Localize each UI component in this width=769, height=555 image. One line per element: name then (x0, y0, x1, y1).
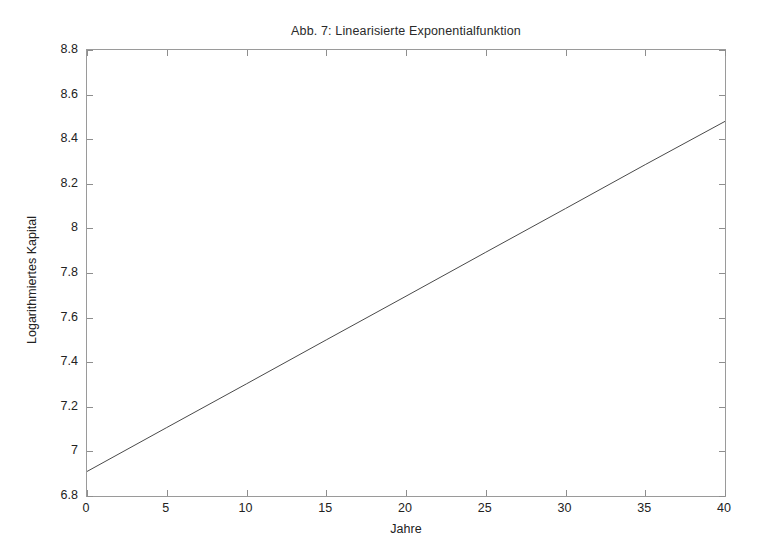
x-tick-mark-top (566, 50, 567, 56)
y-tick-label: 7.2 (22, 399, 78, 413)
x-tick-mark (167, 490, 168, 496)
y-tick-label: 6.8 (22, 488, 78, 502)
x-tick-mark-top (486, 50, 487, 56)
x-tick-mark-top (247, 50, 248, 56)
y-tick-label: 7.8 (22, 265, 78, 279)
x-tick-mark (247, 490, 248, 496)
y-tick-mark-right (719, 496, 725, 497)
x-tick-mark (725, 490, 726, 496)
y-tick-mark-right (719, 95, 725, 96)
x-tick-mark-top (167, 50, 168, 56)
x-tick-mark (486, 490, 487, 496)
x-tick-label: 25 (478, 501, 492, 515)
y-tick-mark-right (719, 139, 725, 140)
y-tick-mark (87, 496, 93, 497)
x-tick-label: 30 (558, 501, 572, 515)
x-tick-label: 15 (318, 501, 332, 515)
x-tick-mark (406, 490, 407, 496)
x-tick-mark (326, 490, 327, 496)
x-tick-mark-top (326, 50, 327, 56)
chart-title: Abb. 7: Linearisierte Exponentialfunktio… (86, 24, 726, 38)
y-tick-label: 7.6 (22, 310, 78, 324)
y-tick-mark-right (719, 362, 725, 363)
x-tick-mark-top (406, 50, 407, 56)
y-tick-mark (87, 228, 93, 229)
y-tick-label: 8.2 (22, 176, 78, 190)
x-tick-mark (645, 490, 646, 496)
y-tick-label: 8.8 (22, 42, 78, 56)
x-tick-label: 10 (239, 501, 253, 515)
y-tick-mark (87, 50, 93, 51)
y-tick-mark-right (719, 228, 725, 229)
x-tick-mark-top (645, 50, 646, 56)
x-tick-label: 35 (637, 501, 651, 515)
y-tick-mark-right (719, 407, 725, 408)
y-tick-mark (87, 184, 93, 185)
y-tick-mark (87, 407, 93, 408)
y-tick-mark-right (719, 451, 725, 452)
x-tick-label: 0 (83, 501, 90, 515)
y-tick-mark-right (719, 318, 725, 319)
y-tick-label: 8.6 (22, 87, 78, 101)
y-tick-mark (87, 451, 93, 452)
y-tick-mark (87, 139, 93, 140)
y-tick-mark-right (719, 273, 725, 274)
chart-figure: Abb. 7: Linearisierte Exponentialfunktio… (0, 0, 769, 555)
x-axis-label: Jahre (86, 522, 726, 536)
y-tick-label: 8 (22, 220, 78, 234)
data-series-line (87, 121, 725, 471)
y-tick-mark (87, 95, 93, 96)
x-tick-mark-top (725, 50, 726, 56)
y-tick-mark (87, 273, 93, 274)
y-tick-mark-right (719, 184, 725, 185)
data-line-svg (87, 50, 725, 496)
y-tick-label: 8.4 (22, 131, 78, 145)
plot-area (86, 49, 726, 497)
x-tick-label: 40 (717, 501, 731, 515)
y-tick-mark (87, 318, 93, 319)
x-tick-label: 5 (162, 501, 169, 515)
y-tick-label: 7.4 (22, 354, 78, 368)
y-tick-mark-right (719, 50, 725, 51)
y-tick-mark (87, 362, 93, 363)
x-tick-label: 20 (398, 501, 412, 515)
x-tick-mark (566, 490, 567, 496)
y-tick-label: 7 (22, 443, 78, 457)
